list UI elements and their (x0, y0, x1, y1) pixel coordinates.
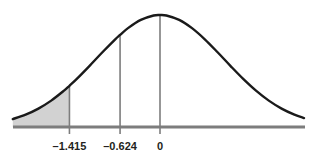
tick-label-1: –0.624 (103, 140, 138, 152)
normal-distribution-chart: –1.415–0.6240 (0, 0, 316, 162)
chart-canvas: –1.415–0.6240 (0, 0, 316, 162)
tick-label-2: 0 (157, 140, 163, 152)
axis-tick-labels: –1.415–0.6240 (53, 140, 163, 152)
tick-label-0: –1.415 (53, 140, 87, 152)
